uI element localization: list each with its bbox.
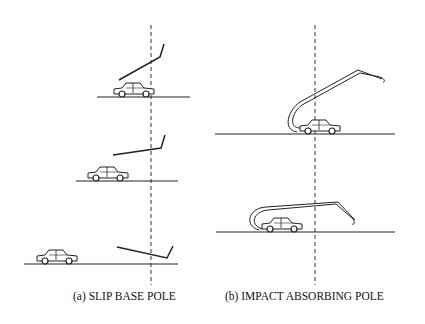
pole: [117, 246, 173, 258]
bent-pole-outline: [288, 70, 382, 132]
caption-impact-absorbing-pole: (b) IMPACT ABSORBING POLE: [225, 290, 384, 302]
panel-impact-absorbing-pole: [215, 25, 395, 285]
car-icon: [300, 120, 340, 134]
car-icon: [114, 83, 154, 97]
caption-slip-base-pole: (a) SLIP BASE POLE: [73, 290, 176, 302]
diagram-canvas: [0, 0, 425, 324]
car-icon: [37, 250, 77, 264]
car-icon: [88, 167, 128, 181]
panel-slip-base-pole: [24, 25, 190, 285]
pole: [119, 44, 164, 80]
pole: [113, 135, 165, 155]
car-icon: [262, 218, 302, 232]
